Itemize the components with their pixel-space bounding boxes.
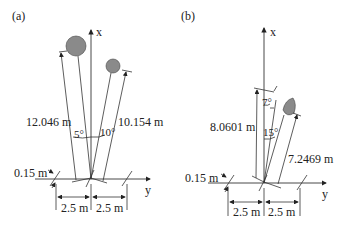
- distance-cap-left-tick: [274, 86, 277, 91]
- offset-arrow-top: [221, 174, 226, 177]
- offset-arrow-bottom: [52, 183, 55, 188]
- angle-label-right: 10°: [100, 126, 115, 138]
- panel-b: (b) x y 8.0601 m 7.2469 m 7° 15°: [181, 9, 334, 219]
- panel-b-label: (b): [181, 9, 195, 23]
- base-tick-left: [252, 176, 264, 182]
- spacing-label-left: 2.5 m: [61, 201, 89, 215]
- distance-label-left: 12.046 m: [26, 115, 72, 129]
- distance-cap-left: [59, 51, 67, 52]
- object-small: [106, 59, 120, 73]
- angle-label-left: 5°: [74, 128, 84, 140]
- distance-line-left: [256, 90, 257, 178]
- rail-tick-left: [224, 175, 234, 190]
- rail-tick-right: [297, 175, 307, 190]
- object-large: [66, 36, 86, 56]
- y-axis-label: y: [145, 183, 151, 197]
- distance-label-right: 10.154 m: [118, 115, 164, 129]
- sight-line-left: [78, 56, 91, 179]
- distance-label-right: 7.2469 m: [288, 152, 334, 166]
- panel-a: (a) x y 12.046 m 10.154 m 5° 10° 0.15: [12, 9, 164, 215]
- spacing-label-right: 2.5 m: [268, 205, 296, 219]
- x-axis-label: x: [96, 25, 102, 39]
- y-axis-label: y: [322, 187, 328, 201]
- distance-label-left: 8.0601 m: [210, 120, 256, 134]
- offset-label: 0.15 m: [185, 171, 219, 185]
- panel-a-label: (a): [12, 9, 25, 23]
- offset-label: 0.15 m: [14, 166, 48, 180]
- angle-label-bottom: 15°: [263, 126, 278, 138]
- x-axis-label: x: [270, 25, 276, 39]
- rail-tick-right: [122, 171, 132, 186]
- offset-arrow-top: [48, 170, 53, 173]
- distance-cap-right: [122, 70, 132, 72]
- object-teardrop: [283, 98, 295, 115]
- sight-line-left: [264, 100, 276, 183]
- diagram: (a) x y 12.046 m 10.154 m 5° 10° 0.15: [0, 0, 343, 230]
- spacing-label-left: 2.5 m: [233, 205, 261, 219]
- angle-label-top: 7°: [262, 96, 272, 108]
- spacing-label-right: 2.5 m: [96, 201, 124, 215]
